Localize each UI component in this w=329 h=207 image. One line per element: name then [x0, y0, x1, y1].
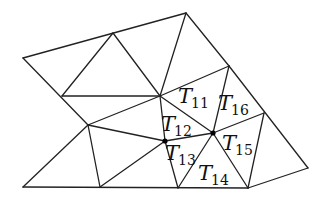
triangulation-diagram: T11T16T12T15T13T14	[0, 0, 329, 207]
mesh-edge-A-C	[23, 13, 186, 58]
mesh-edge-D-G	[88, 96, 160, 125]
label-t15: T15	[222, 131, 253, 158]
mesh-edge-G-J	[23, 125, 88, 187]
mesh-edge-B-D	[113, 33, 160, 96]
mesh-edge-G-H	[88, 125, 165, 141]
vertex-dot-I	[210, 130, 215, 135]
mesh-edge-G-K	[88, 125, 100, 187]
label-t12: T12	[161, 112, 192, 139]
mesh-edge-H-K	[100, 141, 165, 187]
mesh-edge-C-F	[186, 13, 229, 66]
label-t11: T11	[178, 84, 209, 111]
label-t14: T14	[198, 161, 229, 188]
triangle-labels: T11T16T12T15T13T14	[161, 84, 253, 188]
mesh-edge-M-N	[248, 168, 308, 188]
label-t13: T13	[165, 141, 196, 168]
mesh-edge-A-G	[23, 58, 88, 125]
mesh-svg: T11T16T12T15T13T14	[0, 0, 329, 207]
label-t16: T16	[218, 91, 249, 118]
mesh-edge-B-E	[62, 33, 113, 96]
